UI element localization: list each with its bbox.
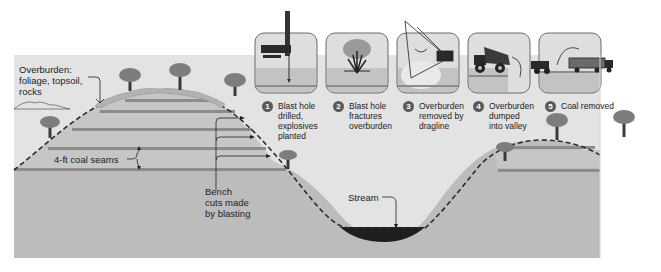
- mining-diagram: Overburden: foliage, topsoil, rocks 4-ft…: [0, 0, 661, 272]
- step-2-panel: [326, 33, 388, 93]
- overburden-label-line2: foliage, topsoil,: [19, 75, 82, 86]
- step-4-text: Overburden dumped into valley: [489, 101, 547, 131]
- step-3-panel: [397, 21, 459, 93]
- step-panels: [255, 11, 613, 93]
- step-2-number: 2: [333, 101, 344, 112]
- coal-seams-label: 4-ft coal seams: [54, 154, 118, 165]
- step-4-panel: [468, 33, 530, 93]
- step-2-text: Blast hole fractures overburden: [349, 101, 407, 131]
- step-1-label: 1 Blast hole drilled, explosives planted: [262, 101, 337, 151]
- step-3-number: 3: [403, 101, 414, 112]
- step-3-text: Overburden removed by dragline: [419, 101, 477, 131]
- step-4-number: 4: [473, 101, 484, 112]
- overburden-label: Overburden: foliage, topsoil, rocks: [19, 64, 82, 97]
- step-1-text: Blast hole drilled, explosives planted: [278, 101, 336, 141]
- step-3-label: 3 Overburden removed by dragline: [403, 101, 478, 141]
- step-1-panel: [255, 11, 317, 93]
- bench-label-line2: cuts made: [205, 197, 250, 208]
- bench-label-line1: Bench: [205, 186, 250, 197]
- step-2-label: 2 Blast hole fractures overburden: [333, 101, 408, 141]
- step-4-label: 4 Overburden dumped into valley: [473, 101, 548, 141]
- step-5-label: 5 Coal removed: [545, 101, 635, 115]
- step-5-number: 5: [545, 101, 556, 112]
- overburden-label-line3: rocks: [19, 86, 82, 97]
- step-1-number: 1: [262, 101, 273, 112]
- step-5-text: Coal removed: [561, 101, 641, 111]
- bench-label-line3: by blasting: [205, 208, 250, 219]
- right-hill-layer: [495, 150, 600, 168]
- stream-label: Stream: [348, 192, 379, 203]
- overburden-label-line1: Overburden:: [19, 64, 82, 75]
- bench-cuts-label: Bench cuts made by blasting: [205, 186, 250, 219]
- step-5-panel: [531, 33, 613, 93]
